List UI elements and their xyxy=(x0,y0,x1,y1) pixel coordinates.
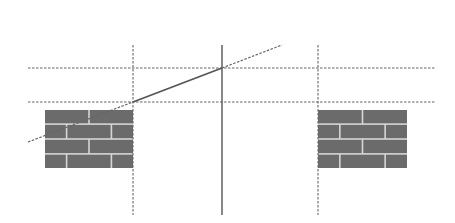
right-brick-wall xyxy=(318,110,407,168)
sight-line-extension-right xyxy=(222,45,282,68)
brick xyxy=(318,140,362,153)
sight-line-diagram xyxy=(0,0,455,223)
brick xyxy=(112,125,133,138)
brick xyxy=(341,155,385,168)
brick xyxy=(318,110,362,123)
brick xyxy=(67,155,110,168)
brick xyxy=(90,140,133,153)
brick xyxy=(45,140,88,153)
brick xyxy=(90,110,133,123)
brick xyxy=(45,155,66,168)
brick xyxy=(386,155,407,168)
sight-line-solid xyxy=(133,68,222,102)
brick xyxy=(112,155,133,168)
brick xyxy=(318,155,339,168)
brick xyxy=(363,140,407,153)
brick xyxy=(386,125,407,138)
brick xyxy=(341,125,385,138)
brick xyxy=(318,125,339,138)
brick xyxy=(363,110,407,123)
brick xyxy=(67,125,110,138)
diagram-canvas xyxy=(0,0,455,223)
